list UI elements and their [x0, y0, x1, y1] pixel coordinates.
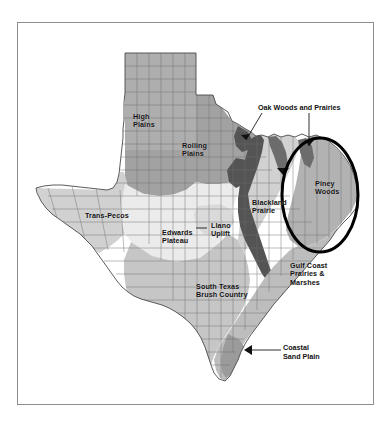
region-label-high-plains: High Plains	[133, 113, 155, 130]
region-label-piney-woods: Piney Woods	[315, 180, 339, 197]
callout-label-coastal-sand-plain: Coastal Sand Plain	[283, 344, 320, 361]
region-label-edwards-plateau: Edwards Plateau	[162, 229, 193, 246]
region-label-gulf-coast-prairies-and-marshes: Gulf Coast Prairies & Marshes	[290, 262, 327, 287]
region-label-rolling-plains: Rolling Plains	[182, 142, 207, 159]
region-label-trans-pecos: Trans-Pecos	[85, 212, 129, 220]
texas-map-svg	[0, 0, 392, 424]
callout-label-oak-woods-and-prairies: Oak Woods and Prairies	[258, 104, 341, 113]
region-label-llano-uplift: Llano Uplift	[211, 222, 231, 239]
region-label-south-texas-brush-country: South Texas Brush Country	[196, 283, 248, 300]
arrowhead-coastal-sand-plain	[244, 345, 252, 355]
texas-ecoregions-figure: High Plains Rolling Plains Trans-Pecos E…	[0, 0, 392, 424]
region-high-plains	[125, 53, 196, 153]
region-label-blackland-prairie: Blackland Prairie	[252, 199, 287, 216]
